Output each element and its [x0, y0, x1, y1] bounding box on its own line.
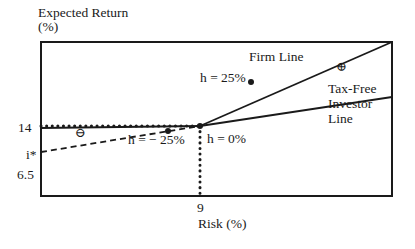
investor-label-3: Line	[328, 111, 353, 126]
tick-6-5: 6.5	[17, 167, 34, 182]
x-axis-label: Risk (%)	[198, 216, 246, 231]
tick-istar: i*	[26, 147, 37, 162]
investor-label-1: Tax-Free	[328, 81, 377, 96]
firm-line-label: Firm Line	[249, 49, 303, 64]
investor-label-2: Investor	[328, 96, 372, 111]
y-axis-label: Expected Return	[38, 5, 128, 20]
tick-9: 9	[197, 200, 204, 215]
h-neg-label: h = − 25%	[128, 132, 185, 147]
point-h-zero	[197, 123, 203, 129]
minus-marker-icon: ⊖	[75, 125, 86, 140]
plus-marker-icon: ⊕	[336, 59, 347, 74]
h-pos-label: h = 25%	[200, 70, 246, 85]
h-zero-label: h = 0%	[207, 131, 246, 146]
y-axis-unit: (%)	[38, 19, 58, 34]
tick-14: 14	[18, 120, 32, 135]
diagram-canvas	[0, 0, 415, 249]
point-h-pos	[248, 79, 254, 85]
